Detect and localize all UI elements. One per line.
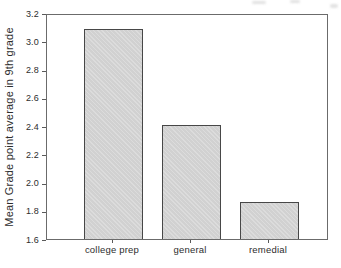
scan-artifact bbox=[252, 1, 266, 4]
x-category-label: college prep bbox=[67, 244, 157, 255]
x-category-label: remedial bbox=[223, 244, 313, 255]
y-tick-mark bbox=[42, 127, 46, 128]
y-tick-label: 1.8 bbox=[13, 207, 39, 216]
y-tick-mark bbox=[42, 212, 46, 213]
scan-artifact bbox=[330, 4, 338, 8]
y-tick-label: 2.2 bbox=[13, 151, 39, 160]
bar-general bbox=[162, 125, 221, 239]
plot-area bbox=[46, 14, 328, 240]
y-tick-mark bbox=[42, 99, 46, 100]
bar-remedial bbox=[240, 202, 299, 239]
y-tick-mark bbox=[42, 240, 46, 241]
y-tick-label: 3.0 bbox=[13, 38, 39, 47]
y-tick-mark bbox=[42, 184, 46, 185]
x-tick-mark bbox=[268, 240, 269, 243]
y-tick-label: 2.8 bbox=[13, 66, 39, 75]
y-tick-label: 2.4 bbox=[13, 123, 39, 132]
y-tick-label: 1.6 bbox=[13, 236, 39, 245]
y-tick-label: 3.2 bbox=[13, 10, 39, 19]
y-tick-label: 2.0 bbox=[13, 179, 39, 188]
x-category-label: general bbox=[145, 244, 235, 255]
y-tick-mark bbox=[42, 14, 46, 15]
bar-chart: Mean Grade point average in 9th grade 3.… bbox=[0, 0, 341, 268]
x-tick-mark bbox=[190, 240, 191, 243]
y-tick-mark bbox=[42, 155, 46, 156]
bar-college-prep bbox=[84, 29, 143, 239]
y-tick-mark bbox=[42, 71, 46, 72]
y-tick-label: 2.6 bbox=[13, 94, 39, 103]
x-tick-mark bbox=[112, 240, 113, 243]
scan-artifact bbox=[290, 0, 300, 3]
y-tick-mark bbox=[42, 42, 46, 43]
